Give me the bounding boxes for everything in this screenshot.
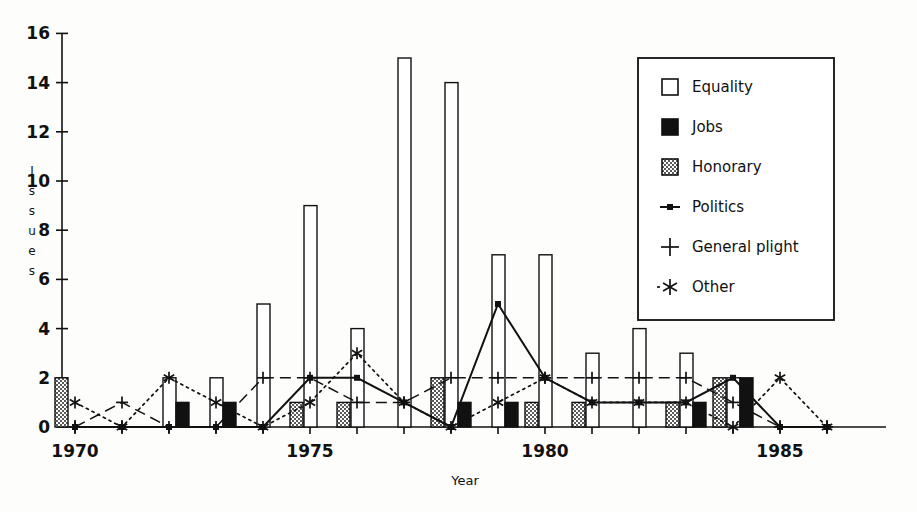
y-tick-label: 8 <box>38 220 50 240</box>
y-tick-label: 14 <box>26 73 50 93</box>
y-tick-label: 0 <box>38 417 50 437</box>
bar-honorary <box>666 402 679 427</box>
bar-honorary <box>572 402 585 427</box>
bar-equality <box>163 378 176 427</box>
bar-jobs <box>693 402 706 427</box>
bar-honorary <box>525 402 538 427</box>
legend-swatch-3 <box>667 204 673 210</box>
bar-honorary <box>55 378 68 427</box>
bar-equality <box>586 353 599 427</box>
x-axis-title-text: Year <box>450 473 479 488</box>
x-tick-label: 1985 <box>756 441 803 461</box>
bar-honorary <box>337 402 350 427</box>
y-axis-title-char: I <box>30 164 34 178</box>
marker-asterisk <box>70 396 80 408</box>
marker-politics <box>730 375 736 381</box>
y-axis-title-char: s <box>29 204 35 218</box>
bar-equality <box>257 304 270 427</box>
y-axis-title-char: u <box>28 224 36 238</box>
legend-swatch-0 <box>662 79 678 95</box>
marker-politics <box>495 301 501 307</box>
legend-item-5: Other <box>692 278 735 296</box>
x-tick-label: 1980 <box>521 441 568 461</box>
bar-equality <box>539 255 552 427</box>
bar-jobs <box>223 402 236 427</box>
legend-swatch-2 <box>662 159 678 175</box>
bar-equality <box>398 58 411 427</box>
bar-jobs <box>505 402 518 427</box>
marker-plus <box>116 396 128 408</box>
legend-item-1: Jobs <box>691 118 723 136</box>
bar-equality <box>304 206 317 427</box>
bar-jobs <box>176 402 189 427</box>
x-tick-label: 1975 <box>286 441 333 461</box>
legend-item-3: Politics <box>692 198 744 216</box>
bar-jobs <box>740 378 753 427</box>
y-tick-label: 2 <box>38 368 50 388</box>
legend-item-0: Equality <box>692 78 753 96</box>
legend-item-2: Honorary <box>692 158 762 176</box>
y-tick-label: 12 <box>26 122 50 142</box>
y-axis-title-char: s <box>29 184 35 198</box>
x-tick-label: 1970 <box>51 441 98 461</box>
marker-plus <box>69 421 81 433</box>
legend-swatch-1 <box>662 119 678 135</box>
bar-honorary <box>290 402 303 427</box>
chart-canvas: 02468101214161970197519801985YearIssuesE… <box>0 0 917 512</box>
marker-politics <box>354 375 360 381</box>
y-axis-title-char: s <box>29 264 35 278</box>
y-tick-label: 4 <box>38 319 50 339</box>
legend-item-4: General plight <box>692 238 799 256</box>
y-tick-label: 16 <box>26 23 50 43</box>
chart-figure: 02468101214161970197519801985YearIssuesE… <box>0 0 917 512</box>
legend-box <box>638 58 834 320</box>
y-axis-title-char: e <box>28 244 35 258</box>
y-tick-label: 6 <box>38 269 50 289</box>
bar-equality <box>680 353 693 427</box>
